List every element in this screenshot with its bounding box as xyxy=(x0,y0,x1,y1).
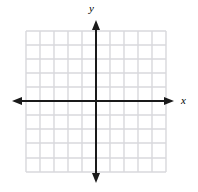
coordinate-plane-figure: y x xyxy=(0,0,198,192)
x-axis-label: x xyxy=(181,95,186,106)
y-axis-arrow-down xyxy=(92,173,100,183)
x-axis-arrow-left xyxy=(12,97,22,105)
y-axis-label: y xyxy=(89,3,94,14)
x-axis xyxy=(12,97,174,105)
coordinate-plane-svg xyxy=(0,0,198,192)
x-axis-arrow-right xyxy=(164,97,174,105)
y-axis-arrow-up xyxy=(92,20,100,30)
